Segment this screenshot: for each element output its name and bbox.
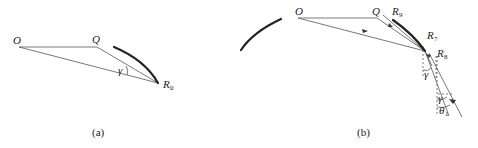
label-o-a: O: [13, 34, 21, 46]
line-o-r: [19, 47, 158, 83]
panel-a: O Q γ R 0 (a): [13, 33, 174, 139]
arrow-ray-b: [388, 23, 393, 27]
arrow-o-r-b: [362, 29, 368, 33]
label-r-a: R: [162, 78, 170, 90]
label-theta-sub: 1: [445, 110, 449, 118]
curve-surface-b: [393, 20, 425, 51]
label-r8: R: [436, 47, 444, 59]
label-r-sub-a: 0: [170, 84, 174, 92]
angle-arc-gamma-a: [126, 66, 128, 75]
label-gamma-b1: γ: [424, 68, 429, 80]
label-r7: R: [426, 29, 434, 41]
line-incident-r7: [425, 51, 432, 66]
label-r7-sub: 7: [434, 35, 438, 43]
label-q-b: Q: [372, 5, 380, 17]
label-r9: R: [391, 5, 399, 17]
curve-arc-left-b: [241, 19, 281, 50]
label-q-a: Q: [92, 33, 100, 45]
panel-b: O Q R 9 R 7 R 8 γ γ θ 1 (b): [241, 5, 462, 139]
figure-canvas: O Q γ R 0 (a) O Q R 9 R 7 R 8 γ: [0, 0, 478, 148]
caption-b: (b): [357, 126, 370, 139]
line-q-r8-b: [377, 18, 425, 51]
label-gamma-a: γ: [118, 64, 123, 76]
label-o-b: O: [295, 5, 303, 17]
label-r9-sub: 9: [399, 11, 403, 19]
label-r8-sub: 8: [444, 53, 448, 61]
label-gamma-b2: γ: [438, 92, 443, 104]
caption-a: (a): [92, 126, 105, 139]
